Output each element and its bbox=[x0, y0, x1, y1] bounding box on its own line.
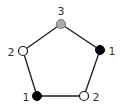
edge-bottom-left-left bbox=[23, 51, 37, 96]
edge-top-right bbox=[61, 24, 100, 50]
edges bbox=[23, 24, 100, 96]
edge-left-top bbox=[23, 24, 61, 51]
vertex-bottom-left bbox=[33, 92, 42, 101]
vertex-bottom-right bbox=[80, 92, 89, 101]
label-left: 2 bbox=[8, 46, 15, 59]
label-top: 3 bbox=[58, 5, 65, 18]
edge-right-bottom-right bbox=[84, 50, 100, 96]
label-right: 1 bbox=[109, 45, 116, 58]
vertex-left bbox=[19, 47, 28, 56]
label-bottom-left: 1 bbox=[23, 91, 30, 104]
vertex-top bbox=[57, 20, 66, 29]
pentagon-diagram: 3 1 2 1 2 bbox=[0, 0, 121, 107]
vertices bbox=[19, 20, 105, 101]
label-bottom-right: 2 bbox=[93, 91, 100, 104]
vertex-right bbox=[96, 46, 105, 55]
